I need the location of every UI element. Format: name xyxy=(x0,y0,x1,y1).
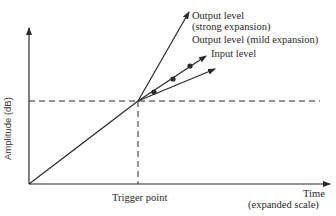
trigger-point-label: Trigger point xyxy=(112,192,167,203)
input-level-line xyxy=(138,69,215,101)
input-ramp-line xyxy=(29,101,138,184)
input-dot-icon xyxy=(170,76,175,81)
input-dot-icon xyxy=(187,63,192,68)
x-axis-label-2: (expanded scale) xyxy=(248,199,319,210)
input-dot-icon xyxy=(151,89,156,94)
strong-expansion-label-1: Output level xyxy=(192,10,244,21)
input-level-label: Input level xyxy=(211,48,256,59)
expansion-diagram xyxy=(0,0,336,216)
strong-expansion-label-2: (strong expansion) xyxy=(192,21,270,32)
y-axis-label: Amplitude (dB) xyxy=(2,97,13,160)
mild-expansion-label: Output level (mild expansion) xyxy=(192,34,318,45)
x-axis-label-1: Time xyxy=(303,188,325,199)
strong-expansion-line xyxy=(138,12,189,101)
